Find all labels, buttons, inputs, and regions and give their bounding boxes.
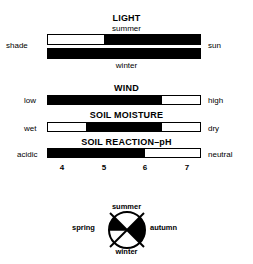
light-summer-fill: [104, 35, 200, 44]
wind-title: WIND: [0, 83, 253, 93]
soil-ph-bar: [47, 148, 201, 158]
light-sun-label: sun: [208, 41, 221, 50]
wind-fill: [48, 96, 162, 104]
light-summer-label: summer: [0, 24, 253, 33]
season-wheel-icon: [107, 210, 147, 250]
light-summer-bar: [47, 34, 201, 45]
light-winter-label: winter: [0, 61, 253, 70]
soil-moisture-fill: [86, 123, 162, 131]
soil-ph-fill: [48, 149, 145, 157]
ph-tick-4: 4: [52, 163, 72, 172]
soil-moisture-wet-label: wet: [24, 124, 36, 133]
light-winter-bar: [47, 48, 201, 59]
season-autumn-label: autumn: [150, 223, 177, 232]
ph-tick-7: 7: [177, 163, 197, 172]
soil-ph-neutral-label: neutral: [208, 150, 232, 159]
wind-high-label: high: [208, 96, 223, 105]
season-spring-label: spring: [72, 223, 95, 232]
ph-tick-6: 6: [135, 163, 155, 172]
soil-moisture-title: SOIL MOISTURE: [0, 110, 253, 120]
light-title: LIGHT: [0, 13, 253, 23]
light-shade-label: shade: [6, 41, 28, 50]
soil-ph-acidic-label: acidic: [17, 150, 37, 159]
soil-moisture-bar: [47, 122, 201, 132]
wind-low-label: low: [24, 96, 36, 105]
ph-tick-5: 5: [94, 163, 114, 172]
soil-moisture-dry-label: dry: [208, 124, 219, 133]
soil-ph-title: SOIL REACTION–pH: [0, 137, 253, 147]
wind-bar: [47, 95, 201, 105]
